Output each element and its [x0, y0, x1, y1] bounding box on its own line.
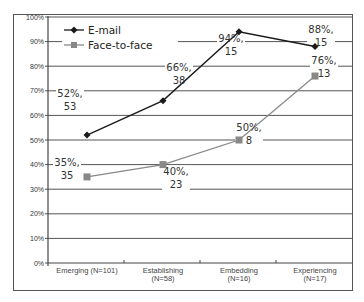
x-tick-label: Emerging (N=101) [56, 266, 118, 275]
x-tick-label-sub: (N=58) [151, 274, 175, 283]
data-label-count: 53 [64, 101, 77, 112]
data-label-pct: 50%, [236, 122, 261, 133]
data-label-count: 23 [170, 179, 183, 190]
data-label-pct: 94%, [218, 33, 243, 44]
y-tick-label: 10% [30, 235, 44, 242]
data-label-count: 38 [173, 75, 186, 86]
data-label-count: 8 [246, 135, 252, 146]
series-lines [84, 28, 319, 180]
y-tick-label: 60% [30, 112, 44, 119]
y-tick-label: 50% [30, 137, 44, 144]
data-label-pct: 35%, [54, 157, 79, 168]
square-marker-icon [236, 137, 243, 144]
y-tick-label: 100% [26, 14, 44, 21]
square-marker-icon [71, 42, 77, 48]
data-label-count: 13 [318, 68, 331, 79]
legend-label-face-to-face: Face-to-face [88, 39, 152, 51]
x-tick-label-sub: (N=17) [303, 274, 327, 283]
data-label-pct: 52%, [57, 88, 82, 99]
legend-label-email: E-mail [88, 24, 121, 36]
data-label-count: 35 [61, 170, 74, 181]
data-label-pct: 66%, [166, 62, 191, 73]
y-tick-label: 90% [30, 38, 44, 45]
x-axis: Emerging (N=101)Establishing(N=58)Embedd… [48, 260, 352, 283]
data-label-count: 15 [315, 37, 328, 48]
y-axis: 0%10%20%30%40%50%60%70%80%90%100% [26, 14, 48, 267]
data-label-pct: 76%, [311, 55, 336, 66]
x-tick-label-sub: (N=16) [227, 274, 251, 283]
data-label-count: 15 [225, 46, 238, 57]
y-tick-label: 30% [30, 186, 44, 193]
y-tick-label: 20% [30, 210, 44, 217]
data-label-pct: 40%, [163, 166, 188, 177]
y-tick-label: 40% [30, 161, 44, 168]
y-tick-label: 0% [34, 260, 44, 267]
y-tick-label: 70% [30, 87, 44, 94]
line-chart: 0%10%20%30%40%50%60%70%80%90%100% Emergi… [0, 0, 364, 302]
square-marker-icon [84, 173, 91, 180]
diamond-marker-icon [84, 132, 91, 139]
y-tick-label: 80% [30, 63, 44, 70]
data-label-pct: 88%, [308, 24, 333, 35]
legend: E-mail Face-to-face [62, 20, 178, 51]
